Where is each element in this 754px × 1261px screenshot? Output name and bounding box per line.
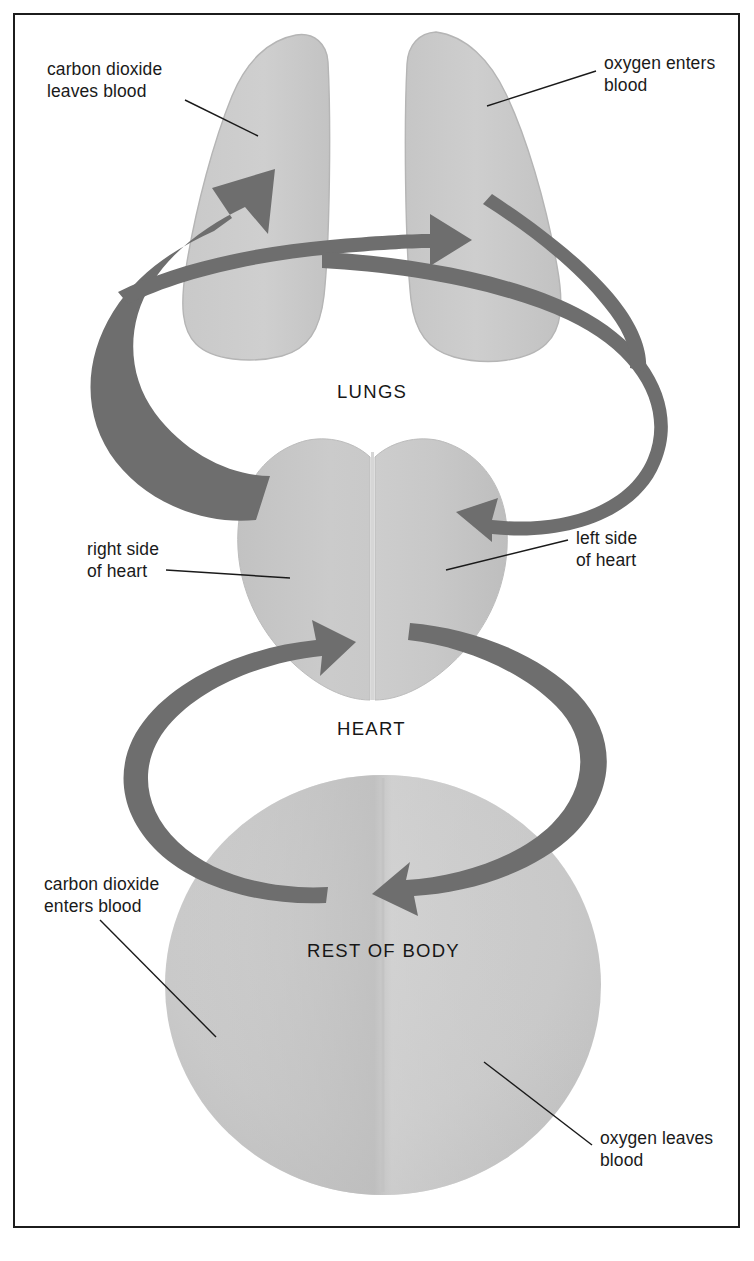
circulatory-system-diagram: carbon dioxide leaves blood oxygen enter…: [0, 0, 754, 1261]
organ-label-rest-of-body: REST OF BODY: [307, 940, 460, 962]
annotation-carbon-dioxide-leaves-blood: carbon dioxide leaves blood: [47, 58, 162, 102]
right-lung-shape: [405, 32, 560, 361]
annotation-oxygen-enters-blood: oxygen enters blood: [604, 52, 715, 96]
diagram-canvas: [0, 0, 754, 1261]
annotation-right-side-of-heart: right side of heart: [87, 538, 159, 582]
annotation-oxygen-leaves-blood: oxygen leaves blood: [600, 1127, 713, 1171]
annotation-left-side-of-heart: left side of heart: [576, 527, 637, 571]
organ-label-lungs: LUNGS: [337, 381, 407, 403]
annotation-carbon-dioxide-enters-blood: carbon dioxide enters blood: [44, 873, 159, 917]
organ-label-heart: HEART: [337, 718, 406, 740]
